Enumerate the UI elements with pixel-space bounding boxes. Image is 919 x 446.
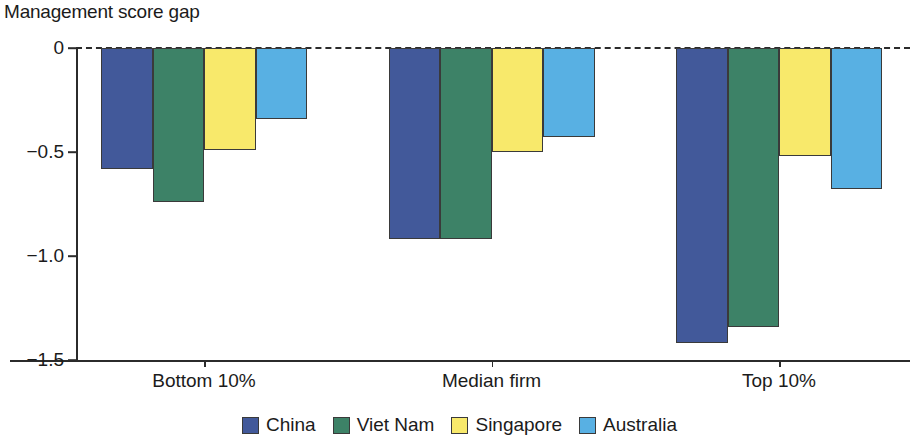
y-axis-tick-label: −1.5 [26,349,64,371]
legend-swatch-icon [242,417,259,434]
legend-item-australia[interactable]: Australia [579,414,677,436]
bar-singapore-bottom-10 [204,48,256,150]
legend-label: Viet Nam [357,414,435,436]
chart-title: Management score gap [4,1,200,23]
y-axis-tick-label: −0.5 [26,141,64,163]
bar-china-bottom-10 [101,48,153,169]
y-axis-tick-mark [68,47,76,49]
x-axis-category-label: Bottom 10% [152,370,256,392]
bar-chart: Management score gap 0−0.5−1.0−1.5 Botto… [0,0,919,446]
legend-item-singapore[interactable]: Singapore [451,414,562,436]
legend-item-viet-nam[interactable]: Viet Nam [333,414,435,436]
legend-swatch-icon [451,417,468,434]
bottom-axis-rule [10,360,910,362]
bar-singapore-top-10 [779,48,831,156]
bar-australia-median-firm [543,48,595,137]
chart-legend: ChinaViet NamSingaporeAustralia [0,414,919,436]
y-axis-tick-mark [68,359,76,361]
bar-viet-nam-top-10 [728,48,780,327]
legend-label: Singapore [475,414,562,436]
x-axis-category-label: Median firm [442,370,541,392]
y-axis-tick-mark [68,255,76,257]
y-axis-tick-label: −1.0 [26,245,64,267]
legend-label: China [266,414,316,436]
bar-china-median-firm [389,48,441,239]
bar-china-top-10 [676,48,728,343]
legend-item-china[interactable]: China [242,414,316,436]
y-axis-tick-mark [68,151,76,153]
x-axis-tick-mark [204,360,206,367]
bar-viet-nam-median-firm [440,48,492,239]
bar-australia-top-10 [831,48,883,189]
y-axis-tick-label: 0 [53,37,64,59]
bar-singapore-median-firm [492,48,544,152]
x-axis-category-label: Top 10% [742,370,816,392]
legend-swatch-icon [333,417,350,434]
y-axis-line [76,48,78,360]
x-axis-tick-mark [779,360,781,367]
bar-viet-nam-bottom-10 [153,48,205,202]
legend-label: Australia [603,414,677,436]
x-axis-tick-mark [492,360,494,367]
bar-australia-bottom-10 [256,48,308,119]
legend-swatch-icon [579,417,596,434]
